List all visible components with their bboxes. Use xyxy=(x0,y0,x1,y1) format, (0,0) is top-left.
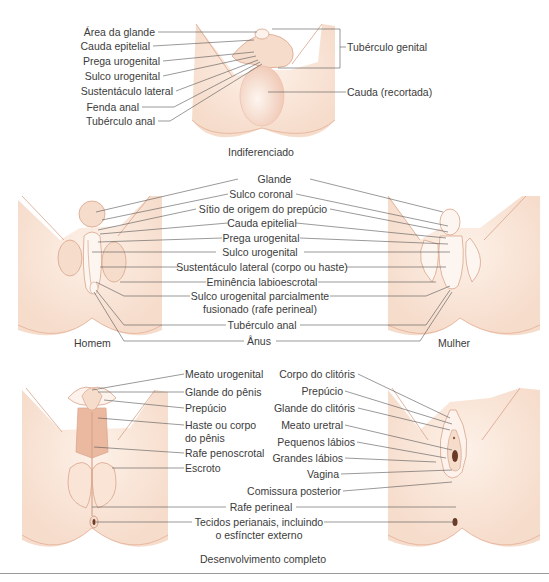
caption-mulher: Mulher xyxy=(438,337,470,349)
label-area-da-glande: Área da glande xyxy=(84,26,155,38)
label-meato-urogenital: Meato urogenital xyxy=(185,368,263,380)
label-rafe-perineal: Rafe perineal xyxy=(0,501,522,513)
label-sustentaculo-lateral: Sustentáculo lateral xyxy=(81,85,173,97)
label-cauda-epitelial-mid: Cauda epitelial xyxy=(0,217,524,229)
label-sitio-origem-prepucio: Sítio de origem do prepúcio xyxy=(0,203,526,215)
label-tuberculo-anal-mid: Tubérculo anal xyxy=(0,319,524,331)
indifferent-stage-illustration xyxy=(192,24,335,137)
label-esfincter-externo: o esfíncter externo xyxy=(0,529,518,541)
label-sulco-coronal: Sulco coronal xyxy=(0,188,522,200)
label-do-penis: do pênis xyxy=(185,432,225,444)
label-corpo-do-clitoris: Corpo do clitóris xyxy=(279,368,355,380)
label-comissura-posterior: Comissura posterior xyxy=(247,485,341,497)
label-vagina: Vagina xyxy=(307,468,339,480)
label-sulco-parcialmente-fusionado: Sulco urogenital parcialmente xyxy=(0,290,520,302)
label-prepucio-female: Prepúcio xyxy=(302,385,343,397)
label-glande-do-penis: Glande do pênis xyxy=(185,386,261,398)
label-rafe-perineal-mid: fusionado (rafe perineal) xyxy=(0,303,520,315)
label-glande-do-clitoris: Glande do clitóris xyxy=(274,402,355,414)
label-prepucio-male: Prepúcio xyxy=(185,402,226,414)
label-tecidos-perianais: Tecidos perianais, incluindo xyxy=(0,516,518,528)
label-prega-urogenital: Prega urogenital xyxy=(83,55,160,67)
label-tuberculo-genital: Tubérculo genital xyxy=(347,41,427,53)
label-grandes-labios: Grandes lábios xyxy=(272,452,343,464)
caption-homem: Homem xyxy=(74,337,111,349)
label-pequenos-labios: Pequenos lábios xyxy=(277,436,355,448)
caption-indiferenciado: Indiferenciado xyxy=(228,146,294,158)
label-sustentaculo-lateral-mid: Sustentáculo lateral (corpo ou haste) xyxy=(0,261,524,273)
label-sulco-urogenital-mid: Sulco urogenital xyxy=(0,246,520,258)
label-rafe-penoscrotal: Rafe penoscrotal xyxy=(185,447,264,459)
label-cauda-epitelial: Cauda epitelial xyxy=(81,40,150,52)
label-cauda-recortada: Cauda (recortada) xyxy=(347,86,432,98)
label-prega-urogenital-mid: Prega urogenital xyxy=(0,232,522,244)
caption-desenvolvimento-completo: Desenvolvimento completo xyxy=(200,553,326,565)
label-meato-uretral: Meato uretral xyxy=(281,419,343,431)
bottom-divider xyxy=(0,573,549,574)
label-fenda-anal: Fenda anal xyxy=(86,101,139,113)
label-tuberculo-anal: Tubérculo anal xyxy=(86,115,155,127)
label-sulco-urogenital: Sulco urogenital xyxy=(85,70,160,82)
label-haste-ou-corpo: Haste ou corpo xyxy=(185,419,256,431)
label-glande: Glande xyxy=(0,173,549,185)
label-escroto: Escroto xyxy=(185,462,221,474)
label-eminencia-labioescrotal: Eminência labioescrotal xyxy=(0,276,524,288)
